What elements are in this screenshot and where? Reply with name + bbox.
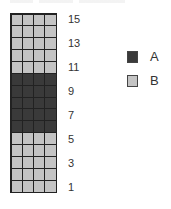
row-label: 11 [68,61,79,73]
legend-item-b: B [127,73,159,88]
row-label: 7 [68,109,74,121]
legend-swatch-b [127,75,138,87]
row-label: 13 [68,37,80,49]
row-label: 5 [68,133,74,145]
cut-off-title [10,0,125,3]
row-label: 3 [68,157,74,169]
legend-label-a: A [150,49,159,64]
legend-item-a: A [127,49,159,64]
legend-label-b: B [150,73,159,88]
row-label: 15 [68,13,80,25]
row-label: 1 [68,181,74,193]
grid-cell [44,180,56,193]
row-label: 9 [68,85,74,97]
legend-swatch-a [127,51,138,63]
row-grid [10,13,57,193]
